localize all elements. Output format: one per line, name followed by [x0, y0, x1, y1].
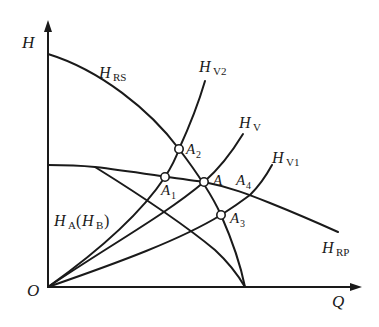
svg-text:H: H: [98, 64, 112, 81]
svg-text:H: H: [238, 114, 252, 131]
y-axis-arrow-icon: [44, 20, 52, 32]
svg-text:H: H: [81, 212, 95, 229]
svg-text:V2: V2: [213, 65, 226, 77]
point-a: [200, 178, 208, 186]
point-a2: [175, 145, 183, 153]
svg-text:RS: RS: [113, 71, 126, 83]
label-h-rs: H RS: [98, 64, 126, 83]
svg-text:(: (: [76, 212, 81, 230]
svg-text:1: 1: [171, 190, 176, 201]
label-a3: A 3: [229, 210, 245, 229]
curve-h-v2: [48, 81, 205, 287]
svg-text:A: A: [229, 210, 240, 226]
svg-text:B: B: [96, 219, 103, 231]
svg-text:A: A: [185, 141, 196, 157]
svg-text:2: 2: [196, 149, 201, 160]
svg-text:V1: V1: [286, 156, 299, 168]
svg-text:A: A: [235, 172, 246, 188]
label-a: A: [212, 172, 223, 188]
svg-text:H: H: [198, 58, 212, 75]
point-a3: [217, 211, 225, 219]
svg-text:H: H: [53, 212, 67, 229]
svg-text:3: 3: [240, 218, 245, 229]
svg-text:V: V: [253, 121, 261, 133]
label-a4: A 4: [235, 172, 251, 191]
pump-curve-diagram: H Q O H RS H V2 H V H V1 H RP H A ( H B …: [0, 0, 379, 327]
svg-text:A: A: [68, 219, 76, 231]
label-a1: A 1: [160, 182, 176, 201]
label-h-rp: H RP: [321, 239, 349, 258]
label-h-v1: H V1: [271, 149, 299, 168]
point-a1: [161, 173, 169, 181]
x-axis-label: Q: [332, 292, 344, 311]
label-h-v: H V: [238, 114, 261, 133]
x-axis-arrow-icon: [350, 283, 362, 291]
origin-label: O: [27, 281, 39, 300]
y-axis-label: H: [21, 33, 36, 52]
label-a2: A 2: [185, 141, 201, 160]
svg-text:): ): [104, 212, 109, 230]
svg-text:4: 4: [246, 180, 251, 191]
svg-text:H: H: [321, 239, 335, 256]
svg-text:RP: RP: [336, 246, 349, 258]
svg-text:H: H: [271, 149, 285, 166]
label-h-a-hb: H A ( H B ): [53, 212, 109, 231]
svg-text:A: A: [212, 172, 223, 188]
svg-text:A: A: [160, 182, 171, 198]
label-h-v2: H V2: [198, 58, 226, 77]
